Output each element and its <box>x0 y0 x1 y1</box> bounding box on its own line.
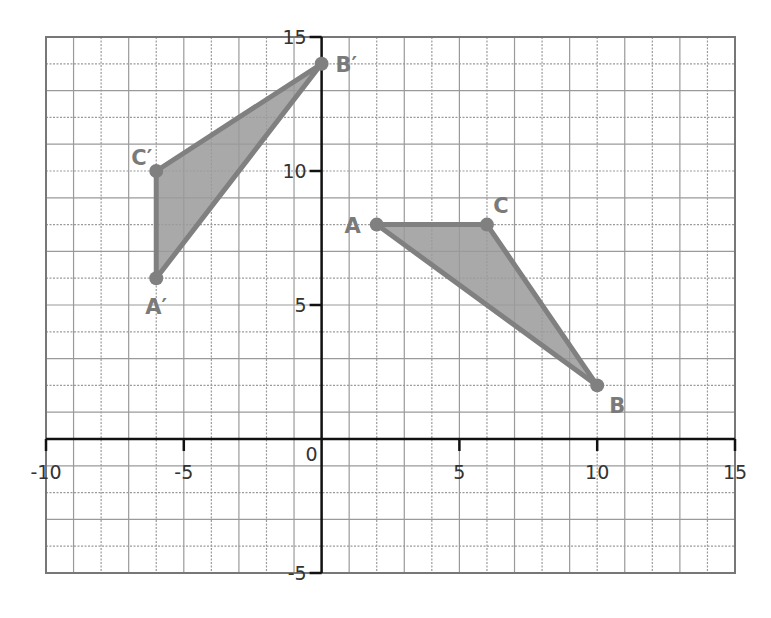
vertex-label: B <box>609 394 625 418</box>
y-tick-label: -5 <box>288 562 307 584</box>
x-tick-label: -5 <box>174 461 193 483</box>
vertex-point <box>149 271 163 285</box>
x-tick-label: 0 <box>306 443 318 465</box>
x-tick-label: -10 <box>30 461 61 483</box>
y-tick-label: 15 <box>282 26 306 48</box>
vertex-label: C <box>493 194 508 218</box>
y-tick-label: 10 <box>282 160 306 182</box>
vertex-point <box>480 218 494 232</box>
x-tick-label: 10 <box>585 461 609 483</box>
x-tick-label: 5 <box>453 461 465 483</box>
x-tick-label: 15 <box>723 461 747 483</box>
vertex-label: C′ <box>131 146 152 170</box>
triangles: ACBA′C′B′ <box>131 53 625 419</box>
vertex-point <box>370 218 384 232</box>
vertex-point <box>315 57 329 71</box>
vertex-label: A′ <box>145 295 167 319</box>
coordinate-plane: ACBA′C′B′ -10-5051015-551015 <box>0 0 771 618</box>
vertex-label: B′ <box>336 53 358 77</box>
y-tick-label: 5 <box>295 294 307 316</box>
vertex-label: A <box>344 214 361 238</box>
vertex-point <box>590 378 604 392</box>
